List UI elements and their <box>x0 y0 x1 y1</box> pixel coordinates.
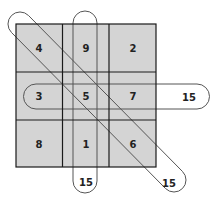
cell-r1c3: 2 <box>130 43 137 54</box>
cell-r2c2: 5 <box>83 91 90 102</box>
cell-r3c3: 6 <box>130 139 137 150</box>
column-sum-label: 15 <box>79 177 93 188</box>
diagonal-sum-label: 15 <box>162 178 176 189</box>
magic-square-diagram: 4 9 2 3 5 7 8 1 6 15 15 15 <box>0 0 222 208</box>
cell-r3c1: 8 <box>36 139 43 150</box>
row-sum-label: 15 <box>182 92 196 103</box>
cell-r1c2: 9 <box>83 43 90 54</box>
cell-r1c1: 4 <box>36 43 43 54</box>
cell-r2c1: 3 <box>36 91 43 102</box>
cell-r3c2: 1 <box>83 139 90 150</box>
cell-r2c3: 7 <box>130 91 137 102</box>
